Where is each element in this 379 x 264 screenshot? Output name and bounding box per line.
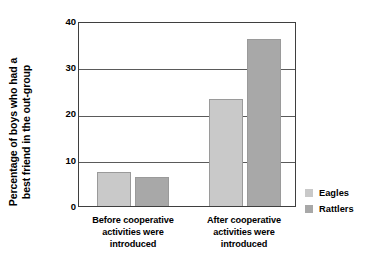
legend-label-rattlers: Rattlers (319, 204, 354, 214)
legend: Eagles Rattlers (305, 186, 354, 218)
legend-swatch-rattlers-icon (305, 205, 313, 213)
x-category-label-before: Before cooperative activities were intro… (78, 214, 188, 251)
legend-label-eagles: Eagles (319, 188, 349, 198)
y-tick-label-0: 0 (50, 202, 76, 212)
x-category-after-line-2: activities were (192, 226, 296, 238)
legend-swatch-eagles-icon (305, 189, 313, 197)
x-category-before-line-2: activities were (78, 226, 188, 238)
x-category-after-line-3: introduced (192, 238, 296, 250)
x-category-after-line-1: After cooperative (192, 214, 296, 226)
bar-eagles-after (209, 99, 243, 206)
plot-area (78, 22, 296, 207)
y-tick-label-30: 30 (50, 63, 76, 73)
y-tick-label-20: 20 (50, 109, 76, 119)
bar-rattlers-after (247, 39, 281, 206)
bar-eagles-before (97, 172, 131, 206)
y-axis-title-line-2: best friend in the out-group (20, 58, 34, 206)
y-axis-title: Percentage of boys who had a best friend… (0, 0, 40, 264)
y-tick-label-10: 10 (50, 156, 76, 166)
legend-item-rattlers: Rattlers (305, 202, 354, 216)
y-tick-label-40: 40 (50, 17, 76, 27)
bar-rattlers-before (135, 177, 169, 206)
x-category-label-after: After cooperative activities were introd… (192, 214, 296, 251)
y-axis-title-line-1: Percentage of boys who had a (7, 58, 21, 206)
x-category-before-line-3: introduced (78, 238, 188, 250)
legend-item-eagles: Eagles (305, 186, 354, 200)
x-category-before-line-1: Before cooperative (78, 214, 188, 226)
